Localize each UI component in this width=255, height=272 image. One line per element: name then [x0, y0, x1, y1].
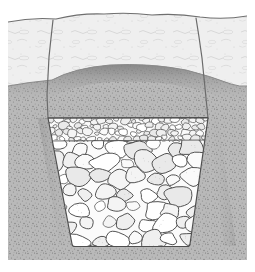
stone-stipple	[131, 174, 132, 175]
stone	[119, 129, 128, 136]
stone-stipple	[155, 177, 156, 178]
stone-stipple	[148, 161, 149, 162]
stone-stipple	[81, 212, 82, 213]
stone-stipple	[165, 161, 166, 162]
stone-stipple	[83, 164, 84, 165]
stone-stipple	[198, 176, 199, 177]
stone-stipple	[163, 220, 164, 221]
stone-stipple	[151, 181, 152, 182]
stone-stipple	[98, 241, 99, 242]
stone-stipple	[149, 244, 150, 245]
stone-stipple	[100, 239, 101, 240]
stone-stipple	[194, 145, 195, 146]
fill-top-line	[48, 118, 208, 119]
stone-stipple	[115, 152, 116, 153]
stone	[121, 159, 134, 167]
stone-stipple	[186, 172, 187, 173]
stone-stipple	[159, 167, 160, 168]
stone-stipple	[112, 147, 113, 148]
stone-stipple	[78, 210, 79, 211]
stone-stipple	[185, 236, 186, 237]
stone-stipple	[144, 160, 145, 161]
stone-stipple	[131, 172, 132, 173]
stone-stipple	[191, 145, 192, 146]
stone-stipple	[143, 158, 144, 159]
stone-stipple	[195, 147, 196, 148]
stone-stipple	[159, 178, 160, 179]
stone-stipple	[135, 177, 136, 178]
stone	[80, 217, 93, 229]
stone-stipple	[194, 171, 195, 172]
illustration-figure: Rock-filled trench cross section	[0, 0, 255, 272]
stone-stipple	[159, 225, 160, 226]
stone-stipple	[185, 238, 186, 239]
stone-stipple	[102, 242, 103, 243]
stone-stipple	[114, 152, 115, 153]
stone-stipple	[153, 245, 154, 246]
stone	[108, 128, 115, 135]
stone	[82, 128, 92, 136]
stone-stipple	[88, 164, 89, 165]
stone-stipple	[82, 242, 83, 243]
stone-stipple	[77, 205, 78, 206]
stone-stipple	[128, 193, 129, 194]
drawing-plate	[8, 11, 247, 270]
cross-section-drawing	[0, 0, 255, 272]
stone-stipple	[167, 206, 168, 207]
stone-stipple	[124, 194, 125, 195]
stone-stipple	[161, 224, 162, 225]
